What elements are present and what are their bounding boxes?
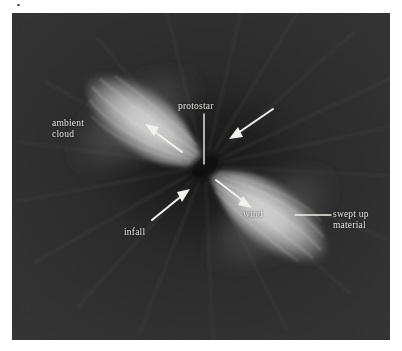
label-ambient-cloud: ambient cloud xyxy=(52,118,84,140)
figure-panel: ambient cloud protostar infall wind swep… xyxy=(12,13,390,340)
margin-speck xyxy=(17,4,20,6)
label-swept-up-material: swept up material xyxy=(333,209,369,231)
figure-labels: ambient cloud protostar infall wind swep… xyxy=(12,13,390,340)
label-wind: wind xyxy=(243,209,263,220)
label-protostar: protostar xyxy=(178,101,214,112)
label-infall: infall xyxy=(124,227,145,238)
protostar-figure: ambient cloud protostar infall wind swep… xyxy=(0,0,402,351)
